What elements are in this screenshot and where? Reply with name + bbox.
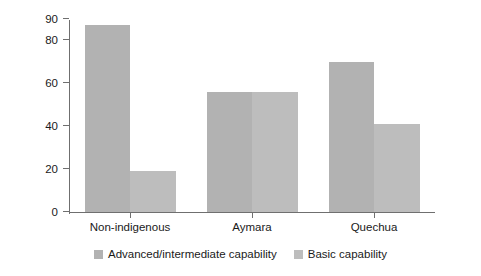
chart-legend: Advanced/intermediate capabilityBasic ca… (0, 248, 481, 260)
bar (252, 92, 298, 212)
y-axis-tick-label: 20 (45, 163, 58, 175)
y-axis-tick: 20 (63, 168, 69, 169)
bar (329, 62, 375, 212)
y-axis-tick: 90 (63, 18, 69, 19)
legend-label: Advanced/intermediate capability (108, 248, 277, 260)
x-axis-tick (374, 213, 375, 218)
y-axis-tick: 80 (63, 39, 69, 40)
bar (130, 171, 176, 212)
y-axis-tick: 40 (63, 125, 69, 126)
legend-item: Advanced/intermediate capability (94, 248, 277, 260)
bar-chart: Percentage 02040608090 Non-indigenousAym… (0, 0, 481, 276)
legend-swatch-icon (94, 250, 103, 259)
x-axis-category-label: Aymara (232, 221, 271, 233)
y-axis-tick-label: 90 (45, 13, 58, 25)
y-axis-tick-label: 80 (45, 34, 58, 46)
legend-item: Basic capability (294, 248, 387, 260)
legend-label: Basic capability (308, 248, 387, 260)
x-axis-tick (130, 213, 131, 218)
y-axis-line (69, 20, 70, 214)
y-axis-tick: 60 (63, 82, 69, 83)
y-axis-tick-label: 40 (45, 120, 58, 132)
x-axis-category-label: Non-indigenous (90, 221, 171, 233)
x-axis-tick (252, 213, 253, 218)
bar (374, 124, 420, 212)
legend-swatch-icon (294, 250, 303, 259)
y-axis-tick-label: 0 (52, 206, 58, 218)
bar (85, 25, 131, 212)
y-axis-tick-label: 60 (45, 77, 58, 89)
bar (207, 92, 253, 212)
x-axis-category-label: Quechua (351, 221, 398, 233)
plot-area: 02040608090 (69, 20, 435, 213)
y-axis-tick: 0 (63, 211, 69, 212)
